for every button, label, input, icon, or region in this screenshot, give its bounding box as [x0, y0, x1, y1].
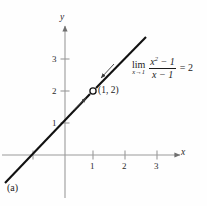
numerator-exponent: 2: [155, 55, 158, 62]
x-tick-label-1: 1: [90, 162, 95, 171]
limit-result: = 2: [180, 63, 193, 73]
figure-caption: (a): [7, 183, 18, 193]
open-circle-hole-marker: [90, 88, 96, 94]
y-axis-label: y: [60, 13, 64, 23]
approach-arrow-from-left-icon: [74, 98, 86, 110]
x-tick-label-3: 3: [154, 162, 159, 171]
fraction-denominator: x − 1: [151, 69, 174, 81]
x-axis-label: x: [181, 148, 185, 158]
coordinate-plot: [0, 0, 207, 206]
x-tick-label-2: 2: [122, 162, 127, 171]
hole-point-label: (1, 2): [98, 86, 119, 96]
limit-operator: lim x→1: [132, 60, 145, 76]
numerator-remainder: − 1: [161, 56, 175, 67]
limit-fraction: x2 − 1 x − 1: [149, 56, 175, 80]
limit-expression: lim x→1 x2 − 1 x − 1 = 2: [132, 56, 193, 80]
limit-operator-subscript: x→1: [132, 69, 145, 76]
y-tick-label-3: 3: [52, 55, 57, 64]
y-tick-label-2: 2: [52, 87, 57, 96]
fraction-numerator: x2 − 1: [149, 56, 175, 68]
y-tick-label-1: 1: [52, 119, 57, 128]
figure-limit-graph: x y 1 2 3 1 2 3 (1, 2) lim x→1 x2 − 1 x …: [0, 0, 207, 206]
